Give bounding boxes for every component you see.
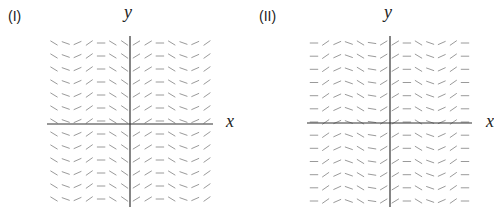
slope-segment — [121, 158, 128, 163]
slope-segment — [380, 54, 387, 58]
slope-segment — [62, 94, 70, 97]
slope-segment — [121, 145, 128, 150]
slope-segment — [109, 67, 116, 71]
slope-segment — [380, 67, 387, 71]
slope-segment — [191, 67, 199, 70]
slope-segment — [345, 173, 353, 176]
slope-segment — [426, 55, 434, 58]
slope-segment — [438, 199, 446, 202]
slope-segment — [62, 172, 70, 175]
slope-segment — [333, 133, 341, 137]
slope-segment — [145, 54, 152, 58]
slope-segment — [86, 80, 93, 85]
slope-segment — [109, 184, 116, 188]
slope-segment — [133, 80, 140, 84]
slope-segment — [50, 80, 57, 84]
slope-segment — [50, 67, 57, 71]
slope-segment — [180, 133, 188, 136]
slope-segment — [450, 93, 457, 98]
slope-segment — [180, 94, 188, 97]
slope-segment — [191, 119, 199, 122]
slope-segment — [62, 81, 70, 84]
slope-segment — [86, 171, 93, 176]
slope-segment — [50, 93, 57, 97]
slope-segment — [392, 133, 399, 137]
slope-segment — [180, 172, 188, 175]
slope-segment — [450, 54, 457, 59]
slope-segment — [62, 185, 70, 188]
slope-segment — [133, 184, 140, 188]
slope-segment — [121, 197, 128, 202]
slope-segment — [180, 120, 188, 123]
slope-segment — [450, 199, 457, 204]
slope-segment — [380, 133, 387, 137]
slope-segment — [426, 200, 434, 203]
slope-segment — [438, 186, 446, 190]
slope-segment — [438, 147, 446, 151]
slope-segment — [333, 68, 341, 72]
slope-segment — [50, 171, 57, 175]
slope-segment — [357, 173, 364, 177]
slope-segment — [74, 67, 82, 70]
slope-segment — [357, 146, 364, 150]
slope-segment — [109, 197, 116, 201]
slope-segment — [168, 80, 175, 84]
slope-segment — [322, 41, 329, 46]
slope-segment — [380, 94, 387, 98]
slope-segment — [392, 67, 399, 71]
slope-segment — [204, 93, 211, 98]
slope-segment — [121, 106, 128, 111]
slope-segment — [180, 55, 188, 58]
slope-segment — [368, 135, 376, 136]
slope-segment — [333, 199, 341, 202]
slope-segment — [62, 120, 70, 123]
slope-segment — [426, 186, 434, 189]
slope-segment — [450, 159, 457, 164]
slope-segment — [392, 173, 399, 177]
slope-segment — [86, 119, 93, 124]
slope-segment — [180, 81, 188, 84]
slope-segment — [191, 132, 199, 135]
slope-segment — [121, 41, 128, 46]
slope-segment — [204, 184, 211, 189]
slope-segment — [74, 145, 82, 148]
slope-segment — [345, 81, 353, 84]
slope-segment — [345, 42, 353, 45]
slope-segment — [368, 56, 376, 57]
slope-segment — [426, 147, 434, 150]
slope-segment — [145, 158, 152, 162]
slope-segment — [145, 106, 152, 110]
slope-segment — [450, 120, 457, 125]
slope-segment — [450, 67, 457, 72]
slope-segment — [50, 197, 57, 201]
slope-segment — [415, 133, 422, 137]
slope-segment — [62, 133, 70, 136]
slope-segment — [438, 160, 446, 163]
slope-segment — [168, 67, 175, 71]
slope-segment — [50, 184, 57, 188]
slope-segment — [426, 160, 434, 163]
slope-segment — [133, 67, 140, 71]
slope-segment — [357, 159, 364, 163]
slope-segment — [415, 159, 422, 163]
slope-segment — [438, 54, 446, 58]
slope-segment — [86, 184, 93, 189]
slope-segment — [74, 197, 82, 200]
slope-field-panel-1: (I) y x — [0, 0, 250, 209]
slope-segment — [121, 171, 128, 176]
slope-segment — [50, 54, 57, 58]
slope-segment — [168, 119, 175, 123]
slope-segment — [357, 133, 364, 137]
slope-segment — [74, 106, 82, 109]
slope-segment — [204, 158, 211, 163]
slope-segment — [368, 95, 376, 96]
slope-segment — [133, 132, 140, 136]
slope-segment — [168, 171, 175, 175]
slope-segment — [415, 186, 422, 190]
slope-segment — [50, 158, 57, 162]
slope-segment — [426, 81, 434, 84]
slope-segment — [438, 173, 446, 177]
slope-segment — [204, 80, 211, 85]
slope-segment — [191, 106, 199, 109]
slope-segment — [380, 80, 387, 84]
